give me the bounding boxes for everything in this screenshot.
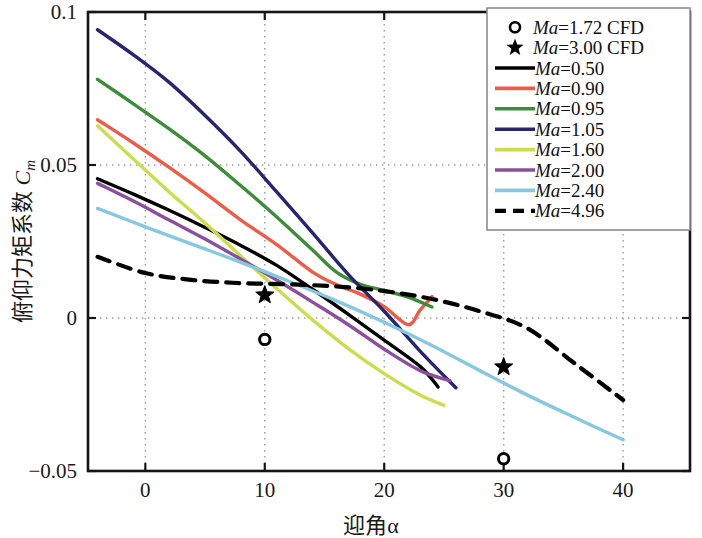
x-tick-label: 10 [254,478,275,502]
x-tick-label: 0 [140,478,151,502]
cfd-marker-circle [498,454,508,464]
legend-label: Ma=0.50 [534,58,604,79]
legend-label: Ma=0.95 [534,98,604,119]
x-axis-title: 迎角α [343,513,399,538]
x-tick-label: 40 [613,478,634,502]
legend-circle-icon [510,22,520,32]
legend-label: Ma=2.40 [534,180,604,201]
svg-text:俯仰力矩系数 Cm: 俯仰力矩系数 Cm [10,160,38,323]
y-axis-title: 俯仰力矩系数 Cm [10,160,38,323]
legend-label: Ma=1.60 [534,139,604,160]
legend-label: Ma=4.96 [534,200,604,221]
legend-label: Ma=1.72 CFD [532,17,644,38]
y-tick-label: 0.1 [51,0,77,24]
figure-root: 010203040−0.0500.050.1 迎角α俯仰力矩系数 Cm Ma=1… [0,0,702,538]
cfd-marker-circle [260,334,270,344]
y-tick-label: 0.05 [40,153,77,177]
pitching-moment-chart: 010203040−0.0500.050.1 迎角α俯仰力矩系数 Cm Ma=1… [0,0,702,538]
legend-label: Ma=2.00 [534,160,604,181]
legend-label: Ma=3.00 CFD [532,37,644,58]
x-tick-label: 20 [374,478,395,502]
legend: Ma=1.72 CFDMa=3.00 CFDMa=0.50Ma=0.90Ma=0… [487,8,690,230]
legend-label: Ma=0.90 [534,78,604,99]
series-line [98,126,444,405]
y-tick-label: −0.05 [28,459,77,483]
series-line [98,257,624,400]
x-tick-label: 30 [493,478,514,502]
legend-label: Ma=1.05 [534,119,604,140]
y-tick-label: 0 [67,306,78,330]
